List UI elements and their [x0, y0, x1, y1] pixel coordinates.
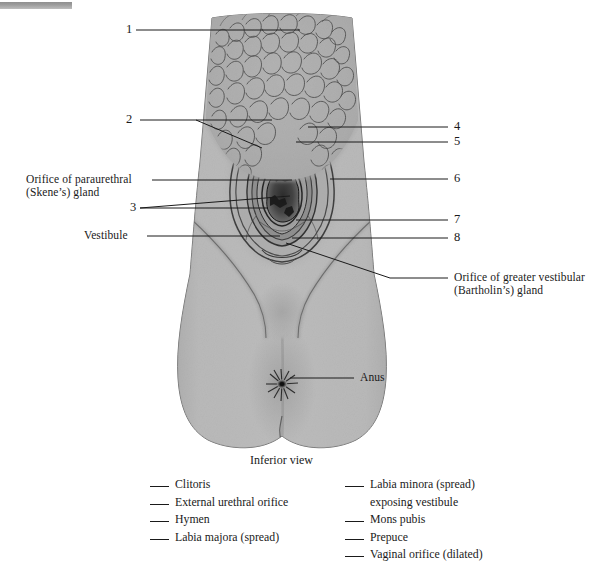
answer-blank[interactable]	[345, 539, 364, 540]
legend-item[interactable]: External urethral orifice	[150, 494, 288, 512]
callout-number-6: 6	[454, 172, 460, 185]
callout-number-3: 3	[130, 201, 136, 214]
legend-item[interactable]: Prepuce	[345, 529, 483, 547]
legend-label-wrap: Labia minora (spread) exposing vestibule	[370, 476, 475, 511]
callout-bartholin-line2: (Bartholin’s) gland	[454, 284, 543, 298]
legend-item[interactable]: Vaginal orifice (dilated)	[345, 546, 483, 564]
legend-label: Hymen	[175, 511, 210, 529]
callout-skene-line2: (Skene’s) gland	[26, 186, 99, 200]
answer-blank[interactable]	[345, 556, 364, 557]
legend-column-2: Labia minora (spread) exposing vestibule…	[345, 476, 483, 564]
answer-blank[interactable]	[150, 539, 169, 540]
answer-legend: Clitoris External urethral orifice Hymen…	[0, 476, 609, 568]
legend-item[interactable]: Mons pubis	[345, 511, 483, 529]
callout-bartholin-line1: Orifice of greater vestibular	[454, 271, 585, 285]
legend-item[interactable]: Labia minora (spread) exposing vestibule	[345, 476, 483, 511]
callout-skene-line1: Orifice of paraurethral	[26, 173, 132, 187]
answer-blank[interactable]	[150, 504, 169, 505]
answer-blank[interactable]	[345, 486, 364, 487]
callout-number-2: 2	[126, 113, 132, 126]
answer-blank[interactable]	[150, 521, 169, 522]
callout-number-8: 8	[454, 231, 460, 244]
legend-item[interactable]: Hymen	[150, 511, 288, 529]
callout-number-1: 1	[126, 23, 132, 36]
legend-column-1: Clitoris External urethral orifice Hymen…	[150, 476, 288, 546]
legend-item[interactable]: Labia majora (spread)	[150, 529, 288, 547]
anatomy-svg	[150, 12, 415, 457]
legend-label-line2: exposing vestibule	[370, 494, 475, 512]
callout-number-4: 4	[454, 120, 460, 133]
legend-label: Prepuce	[370, 529, 408, 547]
callout-number-5: 5	[454, 135, 460, 148]
legend-label: External urethral orifice	[175, 494, 288, 512]
answer-blank[interactable]	[150, 486, 169, 487]
legend-item[interactable]: Clitoris	[150, 476, 288, 494]
legend-label: Labia majora (spread)	[175, 529, 279, 547]
legend-label: Mons pubis	[370, 511, 425, 529]
legend-label: Vaginal orifice (dilated)	[370, 546, 483, 564]
callout-number-7: 7	[454, 213, 460, 226]
page-canvas: 1 2 Orifice of paraurethral (Skene’s) gl…	[0, 0, 609, 568]
top-gray-bar	[0, 2, 72, 9]
answer-blank[interactable]	[345, 521, 364, 522]
legend-label: Clitoris	[175, 476, 210, 494]
figure-caption: Inferior view	[250, 453, 313, 468]
callout-anus: Anus	[360, 371, 385, 385]
callout-vestibule: Vestibule	[84, 229, 128, 243]
legend-label: Labia minora (spread)	[370, 477, 475, 491]
anatomy-illustration	[150, 12, 415, 457]
